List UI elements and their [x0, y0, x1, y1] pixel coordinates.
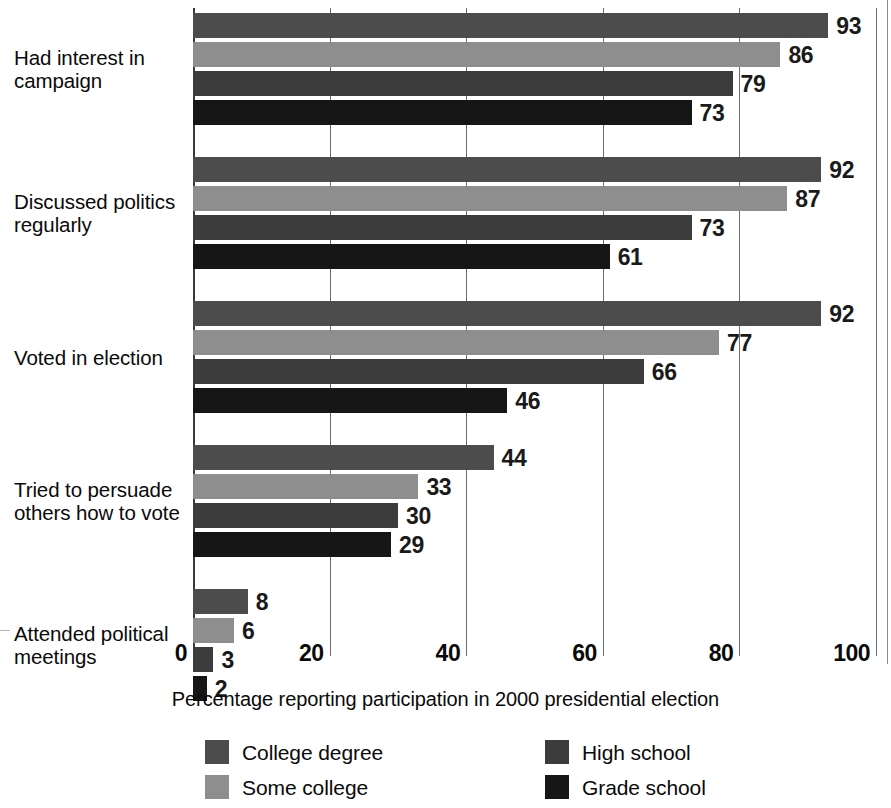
- legend-label-college-degree: College degree: [242, 742, 383, 763]
- bar-row: 87: [193, 186, 876, 211]
- bar-value-label: 92: [829, 302, 854, 325]
- category-label: Attended politicalmeetings: [14, 622, 190, 668]
- bar: [193, 215, 692, 240]
- bar-row: 92: [193, 301, 876, 326]
- bar: [193, 330, 719, 355]
- bar-row: 8: [193, 589, 876, 614]
- bar-row: 33: [193, 474, 876, 499]
- bar-value-label: 3: [221, 648, 234, 671]
- x-tick-label-40: 40: [436, 640, 461, 667]
- x-tick-label-0: 0: [175, 640, 187, 667]
- scan-edge-left-mark: [0, 630, 10, 631]
- bar-value-label: 93: [836, 14, 861, 37]
- bar: [193, 532, 391, 557]
- bar: [193, 157, 821, 182]
- bar: [193, 186, 787, 211]
- category-label: Tried to persuadeothers how to vote: [14, 478, 190, 524]
- bar-value-label: 79: [741, 72, 766, 95]
- bar-value-label: 77: [727, 331, 752, 354]
- bar-row: 93: [193, 13, 876, 38]
- bar-value-label: 73: [700, 101, 725, 124]
- bar-row: 92: [193, 157, 876, 182]
- bar-row: 61: [193, 244, 876, 269]
- x-tick-label-20: 20: [299, 640, 324, 667]
- legend-item-some-college: Some college: [205, 775, 368, 799]
- category-label-line: Voted in election: [14, 346, 190, 369]
- bar-value-label: 66: [652, 360, 677, 383]
- category-label-line: Had interest in: [14, 46, 190, 69]
- legend-swatch-high-school: [545, 740, 569, 764]
- legend-swatch-some-college: [205, 775, 229, 799]
- x-tick-label-60: 60: [572, 640, 597, 667]
- bar-value-label: 6: [242, 619, 255, 642]
- category-label-line: Tried to persuade: [14, 478, 190, 501]
- bar-row: 66: [193, 359, 876, 384]
- bar: [193, 71, 733, 96]
- bar-row: 73: [193, 215, 876, 240]
- bar: [193, 42, 780, 67]
- bar-row: 6: [193, 618, 876, 643]
- bar: [193, 244, 610, 269]
- category-label: Discussed politicsregularly: [14, 190, 190, 236]
- legend-swatch-college-degree: [205, 740, 229, 764]
- category-label-line: campaign: [14, 69, 190, 92]
- category-label-line: others how to vote: [14, 501, 190, 524]
- bar: [193, 359, 644, 384]
- bar-row: 73: [193, 100, 876, 125]
- bar-value-label: 29: [399, 533, 424, 556]
- legend-label-grade-school: Grade school: [582, 777, 706, 798]
- gridline-100: [876, 8, 877, 656]
- bar: [193, 589, 248, 614]
- bar: [193, 647, 213, 672]
- bar-value-label: 46: [515, 389, 540, 412]
- legend-item-high-school: High school: [545, 740, 691, 764]
- scan-edge-line: [887, 0, 888, 664]
- bar-value-label: 30: [406, 504, 431, 527]
- category-label-line: Attended political: [14, 622, 190, 645]
- legend-item-grade-school: Grade school: [545, 775, 706, 799]
- category-label-line: Discussed politics: [14, 190, 190, 213]
- legend-label-some-college: Some college: [242, 777, 368, 798]
- bar-row: 77: [193, 330, 876, 355]
- bar-value-label: 86: [788, 43, 813, 66]
- bar-row: 30: [193, 503, 876, 528]
- bar-row: 29: [193, 532, 876, 557]
- legend-item-college-degree: College degree: [205, 740, 383, 764]
- bar-row: 3: [193, 647, 876, 672]
- bar: [193, 301, 821, 326]
- bar-chart: 938679739287736192776646443330298632 Had…: [0, 0, 891, 808]
- bar-value-label: 44: [502, 446, 527, 469]
- category-label: Voted in election: [14, 346, 190, 369]
- bar: [193, 503, 398, 528]
- x-tick-label-100: 100: [833, 640, 870, 667]
- bar-row: 79: [193, 71, 876, 96]
- plot-area: 938679739287736192776646443330298632: [193, 8, 876, 648]
- x-axis-title: Percentage reporting participation in 20…: [0, 688, 891, 711]
- bar-row: 46: [193, 388, 876, 413]
- bar-value-label: 61: [618, 245, 643, 268]
- legend-swatch-grade-school: [545, 775, 569, 799]
- bar-value-label: 33: [426, 475, 451, 498]
- legend-label-high-school: High school: [582, 742, 691, 763]
- bar: [193, 474, 418, 499]
- bar-value-label: 87: [795, 187, 820, 210]
- bar-row: 44: [193, 445, 876, 470]
- x-tick-label-80: 80: [709, 640, 734, 667]
- legend: College degree Some college High school …: [0, 736, 891, 802]
- bar: [193, 100, 692, 125]
- bar: [193, 13, 828, 38]
- bar-value-label: 92: [829, 158, 854, 181]
- bar: [193, 388, 507, 413]
- bar-value-label: 73: [700, 216, 725, 239]
- category-label: Had interest incampaign: [14, 46, 190, 92]
- category-label-line: meetings: [14, 645, 190, 668]
- bar: [193, 618, 234, 643]
- bar-value-label: 8: [256, 590, 269, 613]
- category-label-line: regularly: [14, 213, 190, 236]
- bar-row: 86: [193, 42, 876, 67]
- bar: [193, 445, 494, 470]
